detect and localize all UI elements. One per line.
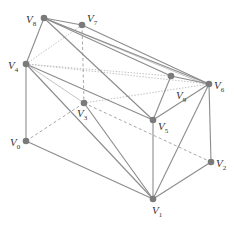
vertex-v1-dot xyxy=(150,196,157,203)
edge-light-v4-v3 xyxy=(26,64,84,103)
edges-layer xyxy=(26,18,211,199)
vertex-v8-dot xyxy=(41,15,48,22)
vertices-layer xyxy=(23,15,215,203)
vertex-v1-label: V1 xyxy=(152,204,163,219)
edge-solid-v4-v1 xyxy=(26,64,153,199)
vertex-v7-label: V7 xyxy=(87,12,98,27)
edge-hidden-dashed-v3-v2 xyxy=(84,103,211,162)
edge-hidden-dotted-v3-v6 xyxy=(84,84,209,103)
edge-solid-v9-v6 xyxy=(171,76,209,84)
edge-solid-v4-v5 xyxy=(26,64,153,120)
vertex-v0-label: V0 xyxy=(10,136,21,151)
vertex-v9-dot xyxy=(168,73,175,80)
polyhedron-diagram: V0V1V2V3V4V5V6V7V8V9 xyxy=(0,0,234,225)
edge-solid-v8-v5 xyxy=(44,18,153,120)
vertex-v8-label: V8 xyxy=(26,13,37,28)
vertex-v0-dot xyxy=(23,138,30,145)
edge-solid-v8-v6 xyxy=(44,18,209,84)
edge-hidden-dashed-v0-v3 xyxy=(26,103,84,141)
vertex-v5-dot xyxy=(150,117,157,124)
vertex-v6-label: V6 xyxy=(214,79,225,94)
vertex-v5-label: V5 xyxy=(158,120,169,135)
edge-solid-v5-v9 xyxy=(153,76,171,120)
vertex-v2-label: V2 xyxy=(216,157,227,172)
vertex-v2-dot xyxy=(208,159,215,166)
vertex-v4-label: V4 xyxy=(8,59,19,74)
edge-solid-v3-v1 xyxy=(84,103,153,199)
edge-hidden-dotted-v4-v7 xyxy=(26,25,82,64)
vertex-v7-dot xyxy=(79,22,86,29)
vertex-v4-dot xyxy=(23,61,30,68)
edge-solid-v0-v1 xyxy=(26,141,153,199)
edge-solid-v7-v6 xyxy=(82,25,209,84)
edge-hidden-dotted-v4-v6 xyxy=(26,64,209,84)
vertex-v6-dot xyxy=(206,81,213,88)
edge-solid-v2-v6 xyxy=(209,84,211,162)
vertex-v3-dot xyxy=(81,100,88,107)
